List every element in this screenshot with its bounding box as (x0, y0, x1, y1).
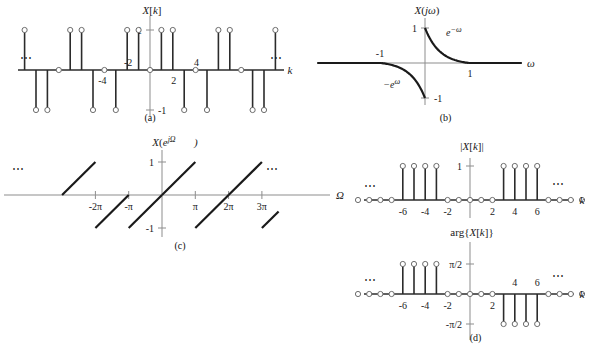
svg-text:X(jω): X(jω) (414, 4, 440, 17)
stem-head (79, 27, 84, 32)
stem-head (367, 291, 372, 296)
stem-head (523, 163, 528, 168)
svg-text:1: 1 (457, 161, 462, 172)
svg-text:-6: -6 (399, 300, 407, 311)
panel-b: 1-1-11X(jω)ωe−ω−eω (b) (300, 0, 591, 132)
panel-b-caption: (b) (300, 112, 591, 123)
svg-text:-2: -2 (124, 57, 132, 68)
svg-text:⋯: ⋯ (266, 162, 279, 176)
stem-head (467, 291, 472, 296)
stem-head (479, 197, 484, 202)
panel-c: 1-1-2π-ππ2π3πX(ejΩ)Ω⋯⋯ (c) (0, 132, 360, 260)
svg-text:1: 1 (468, 68, 473, 79)
sawtooth-ramp (229, 162, 262, 195)
stem-head (557, 197, 562, 202)
svg-text:-π: -π (125, 201, 133, 212)
stem-head (546, 291, 551, 296)
stem-head (523, 321, 528, 326)
annotation-exp-neg-omega: e−ω (446, 25, 462, 38)
stem-head (159, 27, 164, 32)
stem-head (400, 163, 405, 168)
sawtooth-ramp (262, 212, 279, 229)
stem-head (512, 163, 517, 168)
stem-head (136, 27, 141, 32)
stem-head (170, 27, 175, 32)
svg-text:4: 4 (512, 206, 517, 217)
stem-head (147, 67, 152, 72)
annotation-neg-exp-omega: −eω (383, 77, 400, 90)
svg-text:2: 2 (490, 300, 495, 311)
stem-head (557, 291, 562, 296)
stem-head (389, 197, 394, 202)
stem-head (367, 197, 372, 202)
svg-text:6: 6 (535, 277, 540, 288)
stem-head (501, 321, 506, 326)
svg-text:-2: -2 (443, 300, 451, 311)
svg-text:|X[k]|: |X[k]| (460, 140, 483, 152)
svg-text:-4: -4 (421, 300, 429, 311)
stem-head (22, 27, 27, 32)
svg-text:2π: 2π (224, 201, 234, 212)
svg-text:X(ejΩ: X(ejΩ (151, 135, 176, 149)
svg-text:π: π (193, 201, 198, 212)
svg-text:⋯: ⋯ (364, 273, 377, 287)
stem-head (411, 261, 416, 266)
stem-head (227, 27, 232, 32)
svg-text:⋯: ⋯ (270, 51, 283, 65)
panel-d-caption: (d) (360, 332, 591, 343)
stem-head (193, 67, 198, 72)
stem-head (467, 197, 472, 202)
sawtooth-ramp (162, 162, 195, 195)
stem-head (479, 291, 484, 296)
panel-c-caption: (c) (60, 240, 300, 251)
stem-head (125, 27, 130, 32)
svg-text:⋯: ⋯ (552, 177, 565, 191)
stem-head (273, 27, 278, 32)
svg-text:): ) (193, 136, 198, 149)
svg-text:-1: -1 (434, 93, 442, 104)
svg-text:6: 6 (535, 206, 540, 217)
svg-text:3π: 3π (257, 201, 267, 212)
svg-text:-1: -1 (376, 48, 384, 59)
stem-head (56, 67, 61, 72)
stem-head (546, 197, 551, 202)
svg-text:⋯: ⋯ (552, 269, 565, 283)
svg-text:⋯: ⋯ (20, 51, 33, 65)
stem-head (490, 291, 495, 296)
stem-head (355, 291, 360, 296)
stem-head (423, 261, 428, 266)
svg-text:X[k]: X[k] (142, 4, 162, 16)
stem-head (535, 321, 540, 326)
svg-text:ω: ω (527, 57, 535, 69)
stem-head (389, 291, 394, 296)
svg-text:2: 2 (171, 75, 176, 86)
stem-head (68, 27, 73, 32)
svg-text:-2π: -2π (89, 201, 102, 212)
svg-text:-2: -2 (443, 206, 451, 217)
stem-head (512, 321, 517, 326)
svg-text:4: 4 (512, 277, 517, 288)
stem-head (456, 197, 461, 202)
stem-head (445, 291, 450, 296)
svg-text:-4: -4 (98, 75, 106, 86)
stem-head (423, 163, 428, 168)
svg-text:⋯: ⋯ (12, 162, 25, 176)
svg-text:-1: -1 (146, 223, 154, 234)
stem-head (216, 27, 221, 32)
stem-head (568, 197, 573, 202)
svg-text:1: 1 (412, 23, 417, 34)
stem-head (434, 163, 439, 168)
svg-text:2: 2 (490, 206, 495, 217)
stem-head (411, 163, 416, 168)
panel-a: 1-1-4-224X[k]k⋯⋯ (a) (0, 0, 300, 132)
stem-head (378, 197, 383, 202)
stem-head (456, 291, 461, 296)
svg-text:1: 1 (149, 157, 154, 168)
stem-head (239, 67, 244, 72)
panel-a-caption: (a) (0, 112, 300, 123)
panel-d-svg: 1-6-4-2246|X[k]|k⋯⋯π/2-π/2-6-4-2246arg{X… (360, 132, 591, 344)
panel-d: 1-6-4-2246|X[k]|k⋯⋯π/2-π/2-6-4-2246arg{X… (360, 132, 591, 360)
svg-text:4: 4 (194, 57, 199, 68)
stem-head (400, 261, 405, 266)
svg-text:π/2: π/2 (449, 259, 462, 270)
